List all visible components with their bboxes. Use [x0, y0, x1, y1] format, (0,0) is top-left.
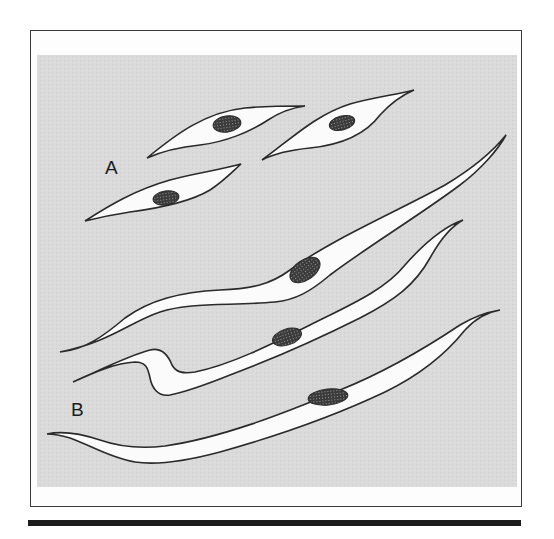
bottom-rule — [28, 520, 521, 526]
group-a-label: A — [105, 157, 118, 178]
cell-illustration: A B — [0, 0, 554, 539]
group-b-label: B — [71, 399, 84, 420]
